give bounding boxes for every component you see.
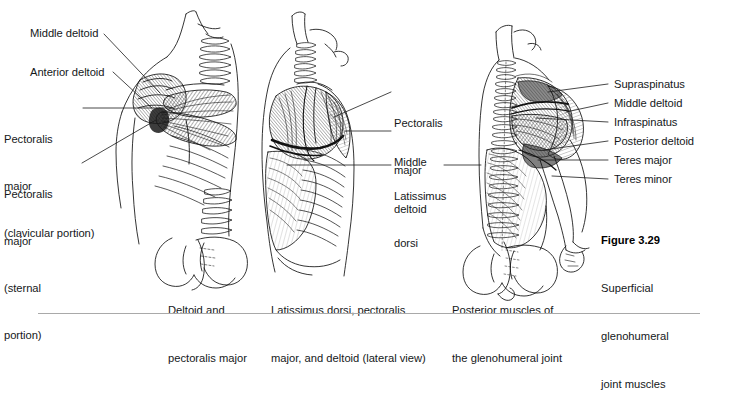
caption-line: Latissimus dorsi, pectoralis xyxy=(271,302,426,318)
label-middle-deltoid-anterior: Middle deltoid xyxy=(30,26,98,42)
leader-lines-lateral xyxy=(287,92,481,165)
label-anterior-deltoid: Anterior deltoid xyxy=(30,65,104,81)
label-latissimus-dorsi-lateral: Latissimus dorsi xyxy=(394,158,446,283)
label-line: dorsi xyxy=(394,236,446,252)
caption-line: Posterior muscles of xyxy=(452,302,562,318)
figure-title-line: joint muscles xyxy=(601,376,669,392)
label-middle-deltoid-posterior: Middle deltoid xyxy=(614,96,682,112)
label-pectoralis-major-sternal: Pectoralis major (sternal portion) xyxy=(4,156,53,374)
figure-title-line: Superficial xyxy=(601,280,669,296)
label-line: Latissimus xyxy=(394,189,446,205)
leader-lines-posterior xyxy=(536,84,608,179)
label-line: Pectoralis xyxy=(4,187,53,203)
anterior-torso-drawing xyxy=(116,11,247,290)
posterior-torso-drawing xyxy=(463,25,589,300)
label-line: portion) xyxy=(4,328,53,344)
label-teres-minor: Teres minor xyxy=(614,172,672,188)
bottom-divider-rule xyxy=(38,313,700,314)
label-line: major xyxy=(4,234,53,250)
figure-number: Figure 3.29 xyxy=(601,232,660,248)
caption-anterior-panel: Deltoid and pectoralis major xyxy=(168,270,247,394)
lateral-torso-drawing xyxy=(262,12,354,276)
figure-title-line: glenohumeral xyxy=(601,328,669,344)
caption-line: the glenohumeral joint xyxy=(452,350,562,366)
leader-lines-anterior xyxy=(82,34,172,163)
label-teres-major: Teres major xyxy=(614,153,672,169)
label-line: (sternal xyxy=(4,281,53,297)
label-supraspinatus: Supraspinatus xyxy=(614,77,685,93)
label-line: Pectoralis xyxy=(4,132,94,148)
caption-lateral-panel: Latissimus dorsi, pectoralis major, and … xyxy=(271,270,426,394)
caption-line: major, and deltoid (lateral view) xyxy=(271,350,426,366)
caption-line: pectoralis major xyxy=(168,350,247,366)
label-posterior-deltoid: Posterior deltoid xyxy=(614,134,694,150)
caption-line: Deltoid and xyxy=(168,302,247,318)
caption-posterior-panel: Posterior muscles of the glenohumeral jo… xyxy=(452,270,562,394)
figure-title: Superficial glenohumeral joint muscles xyxy=(601,248,669,394)
label-infraspinatus: Infraspinatus xyxy=(614,115,677,131)
